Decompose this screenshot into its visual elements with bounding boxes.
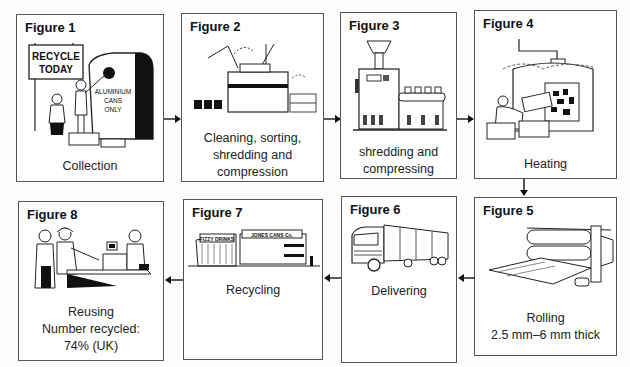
arrow-down-icon: [519, 179, 529, 197]
figure-5-caption: Rolling 2.5 mm–6 mm thick: [475, 310, 616, 344]
rolling-mill-illustration: [483, 222, 615, 292]
figure-4-title: Figure 4: [483, 16, 534, 31]
figure-1-caption: Collection: [17, 158, 163, 175]
figure-3-panel: Figure 3 shredding and compressing: [340, 12, 457, 179]
figure-4-panel: Figure 4 Heating: [474, 10, 617, 179]
figure-6-panel: Figure 6 Delivering: [341, 196, 457, 363]
arrow-left-icon: [164, 275, 183, 285]
sign-text-1: RECYCLE: [32, 51, 80, 62]
figure-8-caption: Reusing Number recycled: 74% (UK): [19, 304, 163, 355]
figure-2-panel: Figure 2 Cleaning, sorting, shredding an…: [181, 13, 324, 182]
arrow-left-icon: [323, 273, 341, 283]
figure-5-panel: Figure 5 Rolling 2.5 mm–6 mm thick: [474, 197, 617, 356]
figure-1-title: Figure 1: [25, 20, 76, 35]
collection-illustration: RECYCLE TODAY ALUMINIUM CANS ONLY: [23, 39, 159, 149]
sign-text-2: TODAY: [39, 64, 73, 75]
svg-text:ALUMINIUM: ALUMINIUM: [95, 88, 131, 95]
svg-text:ONLY: ONLY: [104, 106, 122, 113]
figure-6-caption: Delivering: [342, 283, 456, 300]
factory-buildings-illustration: FIZZY DRINKS JONES CANS Co.: [188, 226, 320, 270]
figure-3-caption: shredding and compressing: [341, 144, 456, 178]
sign-jones-cans: JONES CANS Co.: [251, 232, 294, 238]
shredder-machine-illustration: [349, 39, 449, 139]
figure-8-panel: Figure 8 Reusing Number recycled: 74% (U…: [18, 201, 164, 361]
figure-6-title: Figure 6: [350, 202, 401, 217]
furnace-illustration: [483, 39, 611, 145]
figure-7-panel: Figure 7 FIZZY DRINKS JONES CANS Co. Rec…: [183, 199, 323, 360]
sign-fizzy-drinks: FIZZY DRINKS: [200, 236, 235, 242]
figure-2-title: Figure 2: [190, 19, 241, 34]
figure-2-caption: Cleaning, sorting, shredding and compres…: [182, 130, 323, 181]
truck-illustration: [348, 223, 452, 273]
figure-4-caption: Heating: [475, 156, 616, 173]
figure-1-panel: Figure 1 RECYCLE TODAY ALUMINIUM CANS ON…: [16, 14, 164, 182]
figure-8-title: Figure 8: [27, 207, 78, 222]
figure-3-title: Figure 3: [349, 18, 400, 33]
figure-5-title: Figure 5: [483, 203, 534, 218]
arrow-left-icon: [457, 273, 475, 283]
arrow-right-icon: [457, 114, 475, 124]
svg-text:CANS: CANS: [104, 97, 123, 104]
shop-counter-illustration: [27, 226, 155, 290]
figure-7-caption: Recycling: [184, 282, 322, 299]
figure-7-title: Figure 7: [192, 205, 243, 220]
arrow-right-icon: [164, 114, 182, 124]
sorting-machine-illustration: [188, 38, 320, 128]
